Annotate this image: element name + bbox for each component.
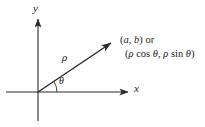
theta-label: θ: [59, 76, 64, 86]
cos-function: cos: [136, 48, 150, 59]
sin-function: sin: [171, 48, 183, 59]
x-axis-label: x: [134, 83, 139, 94]
rho-term-2: ρ: [163, 48, 168, 59]
or-word: or: [145, 34, 154, 45]
paren-close-1: ): [139, 34, 143, 45]
rho-label: ρ: [62, 52, 67, 63]
y-axis-label: y: [33, 3, 38, 14]
rho-term-1: ρ: [129, 48, 134, 59]
radius-ray: [38, 43, 111, 92]
figure-canvas: [0, 0, 205, 127]
point-label-polar: (ρ cos θ, ρ sin θ): [125, 47, 194, 61]
polar-coordinate-figure: y x ρ θ (a, b) or (ρ cos θ, ρ sin θ): [0, 0, 205, 127]
point-coordinates-label: (a, b) or (ρ cos θ, ρ sin θ): [120, 33, 194, 61]
theta-arc: [54, 81, 57, 92]
paren-close-2: ): [191, 48, 195, 59]
point-label-cartesian: (a, b) or: [120, 33, 194, 47]
